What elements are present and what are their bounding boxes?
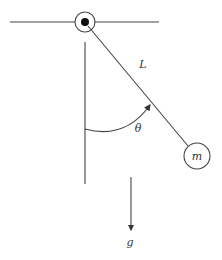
mass-label: m (192, 150, 202, 163)
pendulum-diagram: m L θ g (0, 0, 222, 260)
length-label: L (138, 58, 146, 71)
pivot-dot (81, 18, 89, 26)
gravity-label: g (126, 236, 133, 249)
angle-label: θ (135, 122, 142, 135)
